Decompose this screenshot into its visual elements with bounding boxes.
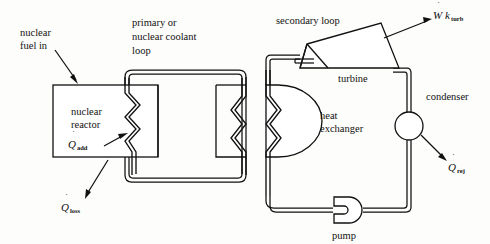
schematic-canvas: nuclear fuel in primary or nuclear coola… <box>0 0 490 244</box>
q-loss-subscript: loss <box>70 207 81 214</box>
symbol-q-rej: ˙ Q rej <box>448 152 465 174</box>
condenser-body <box>395 112 423 140</box>
nuclear-fuel-in-arrow <box>55 50 78 84</box>
label-condenser: condenser <box>426 91 469 102</box>
turbine-body <box>295 23 399 68</box>
nuclear-plant-diagram: nuclear fuel in primary or nuclear coola… <box>0 0 490 244</box>
label-nuclear-fuel-in-line1: nuclear <box>20 27 51 38</box>
label-turbine: turbine <box>338 73 368 84</box>
label-secondary-loop: secondary loop <box>276 15 340 26</box>
q-loss-base: Q <box>61 201 69 213</box>
q-rej-base: Q <box>448 161 456 173</box>
label-heat-exchanger-line2: exchanger <box>320 123 364 134</box>
label-pump: pump <box>332 230 356 241</box>
q-rej-subscript: rej <box>457 167 465 174</box>
q-add-subscript: add <box>77 144 88 151</box>
q-loss-arrow <box>85 160 108 199</box>
label-primary-loop-line1: primary or <box>132 17 177 28</box>
pump-body <box>334 197 362 223</box>
label-nuclear-fuel-in-line2: fuel in <box>20 40 48 51</box>
wk-turb-arrow <box>384 17 432 38</box>
symbol-q-loss: ˙ Q loss <box>61 192 81 214</box>
q-add-base: Q <box>68 138 76 150</box>
q-rej-arrow <box>421 135 447 161</box>
wk-turb-base: W <box>433 9 443 21</box>
primary-loop-inner-frames <box>158 85 246 157</box>
label-heat-exchanger-line1: heat <box>320 110 338 121</box>
wk-turb-subscript: turb <box>451 15 464 22</box>
label-reactor-line1: nuclear <box>71 106 102 117</box>
label-primary-loop-line3: loop <box>132 45 151 56</box>
symbol-wk-turb: ˙ W k turb <box>433 0 464 22</box>
label-primary-loop-line2: nuclear coolant <box>132 31 197 42</box>
label-reactor-line2: reactor <box>71 119 101 130</box>
heat-exchanger-primary-coil <box>231 77 246 175</box>
